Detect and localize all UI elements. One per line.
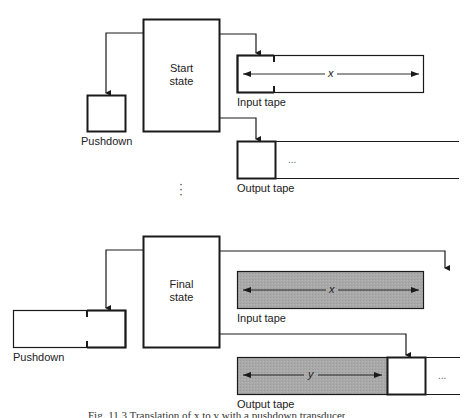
final-state-label: Final state [143,278,220,304]
pushdown-top-box [88,96,126,132]
final-to-output-arrow [220,334,406,355]
pushdown-bottom-label: Pushdown [13,351,64,363]
start-state-label: Start state [143,62,220,88]
start-to-pushdown-arrow [106,33,143,93]
pushdown-bottom [14,311,126,348]
final-to-pushdown-arrow [106,250,143,308]
diagram-canvas [0,0,475,418]
start-to-output-tape-arrow [220,118,256,139]
input-tape-top-var: x [328,67,334,79]
output-tape-bottom [238,358,461,395]
vertical-ellipsis: ··· [178,182,184,197]
start-state-line1: Start [143,62,220,75]
input-tape-bottom-label: Input tape [237,312,286,324]
start-state-line2: state [143,75,220,88]
output-tape-top-label: Output tape [237,182,295,194]
output-tape-top [238,142,460,179]
final-to-right-arrow [220,251,445,268]
output-tape-bottom-var: y [308,368,314,380]
figure-caption: Fig. 11.3 Translation of x to y with a p… [88,409,345,418]
pushdown-top-label: Pushdown [81,135,132,147]
input-tape-top-label: Input tape [237,96,286,108]
output-tape-bottom-continuation: ... [438,371,446,381]
start-to-input-tape-arrow [220,34,256,53]
output-tape-top-continuation: ... [288,155,296,165]
final-state-line1: Final [143,278,220,291]
input-tape-bottom-var: x [329,283,335,295]
final-state-line2: state [143,291,220,304]
